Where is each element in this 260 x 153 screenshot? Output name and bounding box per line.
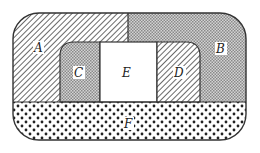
label-e: E	[121, 66, 131, 80]
label-f: F	[123, 117, 133, 131]
label-b: B	[215, 42, 225, 56]
label-c: C	[74, 66, 83, 80]
region-diagram: A B C E D F	[0, 0, 260, 153]
label-a: A	[33, 41, 43, 55]
label-d: D	[173, 66, 184, 80]
